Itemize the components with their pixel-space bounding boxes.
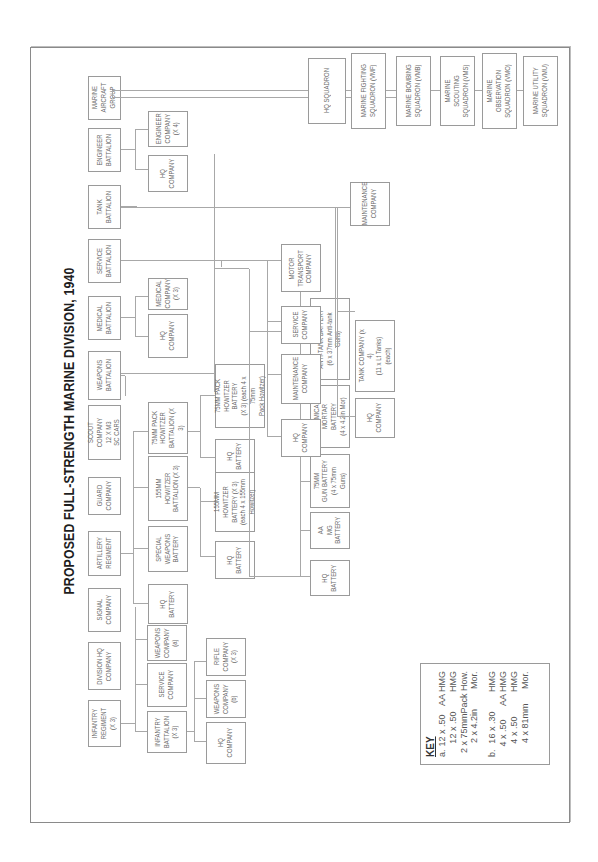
- medical-battalion-box: MEDICAL BATTALION: [88, 296, 121, 340]
- connector: [133, 487, 148, 488]
- connector: [121, 723, 135, 724]
- connector: [135, 731, 147, 732]
- medical-hq-company-box: HQ COMPANY: [148, 314, 188, 358]
- connector: [267, 321, 281, 322]
- connector: [133, 432, 134, 604]
- tank-maintenance-company-box: MAINTENANCE COMPANY: [350, 182, 390, 226]
- connector: [135, 336, 148, 337]
- aa-mg-battery-box: AA MG BATTERY: [310, 512, 350, 549]
- infantry-weapons-company-box: WEAPONS COMPANY (a): [147, 625, 187, 661]
- infantry-service-company-box: SERVICE COMPANY: [147, 663, 187, 707]
- key-row: 4 x 81mmMor.: [520, 671, 531, 757]
- connector: [267, 261, 268, 437]
- artillery-hq-battery-box: HQ BATTERY: [148, 584, 188, 624]
- infantry-regiment-box: INFANTRY REGIMENT (X 3): [88, 700, 121, 747]
- connector: [188, 431, 200, 432]
- connector: [133, 603, 148, 604]
- marine-utility-squadron-box: MARINE UTILITY SQUADRON (VMU): [523, 56, 558, 126]
- connector: [200, 395, 215, 396]
- pack-howitzer-75mm-battalion-box: 75MM PACK HOWITZER BATTALION (X 3): [148, 402, 188, 454]
- connector: [121, 317, 135, 318]
- connector: [133, 548, 148, 549]
- connector: [214, 268, 249, 269]
- key-row: 4 x .50AA HMG: [498, 671, 509, 757]
- connector: [135, 684, 147, 685]
- infantry-weapons-company-b-box: WEAPONS COMPANY (b): [206, 680, 246, 718]
- connector: [135, 296, 148, 297]
- infantry-battalion-box: INFANTRY BATTALION (X 3): [147, 711, 187, 753]
- pack-howitzer-75mm-battery-box: 75MM PACK HOWITZER BATTERY (X 3) (each 4…: [215, 364, 265, 428]
- connector: [267, 374, 281, 375]
- connector: [135, 130, 136, 170]
- service-service-company-box: SERVICE COMPANY: [281, 306, 321, 344]
- connector: [337, 416, 355, 417]
- connector: [346, 90, 351, 91]
- connector: [121, 260, 222, 261]
- tank-hq-company-box: HQ COMPANY: [355, 398, 395, 438]
- engineer-hq-company-box: HQ COMPANY: [148, 155, 188, 192]
- gun-75mm-battery-box: 75MM GUN BATTERY (4 x 75mm Guns): [310, 454, 350, 508]
- connector: [386, 90, 396, 91]
- connector: [267, 436, 281, 437]
- connector: [135, 169, 148, 170]
- tank-battalion-box: TANK BATTALION: [88, 185, 121, 229]
- connector: [300, 576, 310, 577]
- connector: [517, 90, 523, 91]
- connector: [431, 90, 440, 91]
- connector: [214, 374, 215, 392]
- hq-squadron-box: HQ SQUADRON: [308, 58, 346, 124]
- howitzer-155mm-battalion-box: 155MM HOWITZER BATTALION (X 3): [148, 456, 188, 521]
- connector: [200, 556, 215, 557]
- connector: [194, 741, 206, 742]
- key-row: a.12 x .50AA HMG: [437, 671, 448, 757]
- service-maintenance-company-box: MAINTENANCE COMPANY: [281, 354, 321, 404]
- connector: [249, 269, 250, 577]
- connector: [133, 431, 148, 432]
- connector: [121, 373, 214, 374]
- connector: [221, 261, 222, 267]
- service-hq-company-box: HQ COMPANY: [281, 419, 321, 457]
- marine-aircraft-group-box: MARINE AIRCRAFT GROUP: [88, 76, 121, 120]
- connector: [214, 154, 215, 374]
- connector: [194, 732, 195, 742]
- connector: [135, 129, 148, 130]
- key-row: 12 x .50HMG: [448, 671, 459, 757]
- marine-observation-squadron-box: MARINE OBSERVATION SQUADRON (VMO): [482, 53, 517, 129]
- key-title: KEY: [425, 671, 437, 757]
- infantry-hq-company-box: HQ COMPANY: [206, 722, 246, 764]
- connector: [249, 576, 305, 577]
- connector: [125, 376, 126, 396]
- connector: [135, 607, 136, 732]
- key-row: 4 x .50HMG: [509, 671, 520, 757]
- connector: [121, 207, 337, 208]
- key-row: b.16 x .30HMG: [487, 671, 498, 757]
- key-row: 2 x 4.2inMor.: [469, 671, 480, 757]
- connector: [300, 481, 310, 482]
- rifle-company-box: RIFLE COMPANY (X 3): [206, 638, 246, 676]
- connector: [200, 457, 215, 458]
- connector: [188, 487, 200, 488]
- org-chart-canvas: PROPOSED FULL-STRENGTH MARINE DIVISION, …: [0, 0, 598, 862]
- engineer-battalion-box: ENGINEER BATTALION: [88, 128, 121, 172]
- legend-key: KEY a.12 x .50AA HMG 12 x .50HMG 2 x 75m…: [420, 663, 550, 765]
- medical-company-box: MEDICAL COMPANY (X 3): [148, 278, 188, 310]
- scout-company-box: SCOUT COMPANY 12 X M3 SC CARS: [88, 405, 121, 460]
- key-row: 2 x 75mmPack How.: [459, 671, 470, 757]
- connector: [135, 639, 147, 640]
- connector: [187, 731, 194, 732]
- service-battalion-box: SERVICE BATTALION: [88, 239, 121, 283]
- connector: [194, 662, 195, 732]
- connector: [125, 395, 126, 396]
- connector: [221, 260, 267, 261]
- connector: [112, 90, 308, 91]
- marine-bombing-squadron-box: MARINE BOMBING SQUADRON (VMB): [396, 56, 431, 126]
- connector: [300, 530, 310, 531]
- division-hq-company-box: DIVISION HQ COMPANY: [88, 642, 121, 690]
- engineer-company-box: ENGINEER COMPANY (X 4): [148, 111, 188, 147]
- weapons-hq-battery-box: HQ BATTERY: [310, 560, 350, 596]
- diagram-title: PROPOSED FULL-STRENGTH MARINE DIVISION, …: [60, 78, 77, 785]
- marine-fighting-squadron-box: MARINE FIGHTING SQUADRON (VMF): [351, 53, 386, 129]
- connector: [200, 396, 201, 458]
- connector: [194, 661, 206, 662]
- motor-transport-company-box: MOTOR TRANSPORT COMPANY: [281, 244, 321, 292]
